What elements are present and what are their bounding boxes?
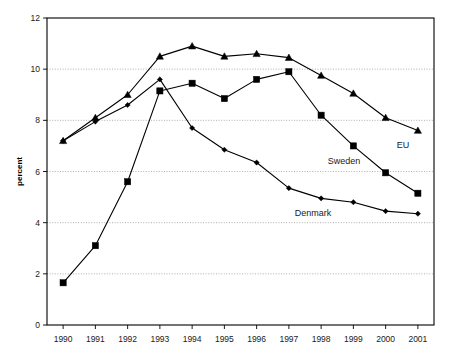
y-tick-label-0: 0 — [35, 320, 40, 330]
series-annotations: EUSwedenDenmark — [295, 140, 410, 218]
y-tick-label-8: 8 — [35, 115, 40, 125]
datapoint-sweden-1997 — [286, 69, 292, 75]
x-tick-label-1994: 1994 — [183, 334, 202, 344]
line-chart: 024681012 199019911992199319941995199619… — [0, 0, 450, 360]
datapoint-denmark-1998 — [319, 196, 324, 201]
gridlines — [47, 69, 434, 274]
series-annotation-sweden: Sweden — [328, 156, 361, 166]
x-tick-label-2000: 2000 — [376, 334, 395, 344]
datapoint-eu-1999 — [350, 90, 357, 96]
datapoint-sweden-1994 — [189, 80, 195, 86]
datapoint-sweden-1993 — [157, 88, 163, 94]
datapoint-sweden-2001 — [415, 190, 421, 196]
datapoint-sweden-1992 — [125, 179, 131, 185]
datapoint-eu-2001 — [414, 127, 421, 133]
chart-canvas: 024681012 199019911992199319941995199619… — [0, 0, 450, 360]
datapoint-sweden-2000 — [383, 170, 389, 176]
x-tick-label-1992: 1992 — [118, 334, 137, 344]
series-denmark — [61, 77, 421, 217]
datapoint-denmark-2001 — [415, 211, 420, 216]
x-tick-label-1991: 1991 — [86, 334, 105, 344]
x-tick-label-1996: 1996 — [247, 334, 266, 344]
series-eu — [60, 43, 422, 144]
y-axis-title: percent — [15, 157, 24, 186]
datapoint-denmark-2000 — [383, 209, 388, 214]
x-tick-label-1995: 1995 — [215, 334, 234, 344]
datapoint-eu-1996 — [253, 50, 260, 56]
x-tick-label-1997: 1997 — [279, 334, 298, 344]
series-line-eu — [63, 46, 418, 141]
y-tick-label-4: 4 — [35, 218, 40, 228]
x-tick-label-2001: 2001 — [408, 334, 427, 344]
datapoint-eu-1994 — [189, 43, 196, 49]
datapoint-sweden-1991 — [92, 243, 98, 249]
series-annotation-denmark: Denmark — [295, 208, 332, 218]
series-sweden — [60, 69, 421, 286]
series-line-denmark — [63, 79, 418, 213]
datapoint-sweden-1990 — [60, 280, 66, 286]
datapoint-eu-1998 — [318, 72, 325, 78]
y-tick-label-12: 12 — [31, 13, 41, 23]
datapoint-sweden-1995 — [221, 95, 227, 101]
datapoint-sweden-1999 — [350, 143, 356, 149]
datapoint-eu-2000 — [382, 114, 389, 120]
datapoint-sweden-1996 — [254, 76, 260, 82]
y-axis-ticks: 024681012 — [31, 13, 47, 330]
y-tick-label-10: 10 — [31, 64, 41, 74]
y-tick-label-6: 6 — [35, 167, 40, 177]
y-tick-label-2: 2 — [35, 269, 40, 279]
x-tick-label-1999: 1999 — [344, 334, 363, 344]
data-series — [60, 43, 422, 286]
series-annotation-eu: EU — [397, 140, 410, 150]
x-tick-label-1993: 1993 — [150, 334, 169, 344]
datapoint-sweden-1998 — [318, 112, 324, 118]
x-tick-label-1998: 1998 — [312, 334, 331, 344]
x-tick-label-1990: 1990 — [54, 334, 73, 344]
x-axis-ticks: 1990199119921993199419951996199719981999… — [54, 325, 428, 344]
datapoint-denmark-1999 — [351, 200, 356, 205]
